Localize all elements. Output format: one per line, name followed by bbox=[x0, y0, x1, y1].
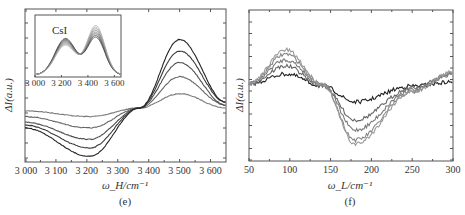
inset-label: CsI bbox=[52, 24, 68, 36]
panel-f-ticks: 50100150200250300 bbox=[244, 10, 461, 175]
svg-text:150: 150 bbox=[323, 164, 338, 175]
svg-text:3 400: 3 400 bbox=[78, 78, 99, 88]
svg-text:3 600: 3 600 bbox=[104, 78, 125, 88]
svg-text:3 300: 3 300 bbox=[107, 165, 130, 176]
panel-f-curves bbox=[249, 48, 452, 145]
panel-e-ylabel: ΔI(a.u.) bbox=[2, 78, 15, 113]
svg-text:3 200: 3 200 bbox=[76, 165, 99, 176]
svg-text:50: 50 bbox=[244, 164, 254, 175]
svg-text:3 100: 3 100 bbox=[45, 165, 68, 176]
svg-text:250: 250 bbox=[405, 164, 420, 175]
svg-text:200: 200 bbox=[364, 164, 379, 175]
panel-e-caption: (e) bbox=[119, 195, 132, 208]
panel-e-xlabel: ω_H/cm⁻¹ bbox=[102, 179, 148, 191]
svg-text:3 400: 3 400 bbox=[137, 165, 160, 176]
svg-text:100: 100 bbox=[282, 164, 297, 175]
svg-text:3 000: 3 000 bbox=[25, 78, 46, 88]
svg-text:300: 300 bbox=[446, 164, 461, 175]
panel-f-caption: (f) bbox=[345, 195, 356, 208]
svg-text:3 500: 3 500 bbox=[168, 165, 191, 176]
figure: 3 0003 1003 2003 3003 4003 5003 600 CsI … bbox=[0, 0, 465, 215]
panel-f-ylabel: ΔI(a.u.) bbox=[233, 78, 246, 113]
svg-text:3 200: 3 200 bbox=[51, 78, 72, 88]
svg-text:3 600: 3 600 bbox=[199, 165, 222, 176]
panel-f-xlabel: ω_L/cm⁻¹ bbox=[328, 179, 372, 191]
svg-text:3 000: 3 000 bbox=[15, 165, 38, 176]
